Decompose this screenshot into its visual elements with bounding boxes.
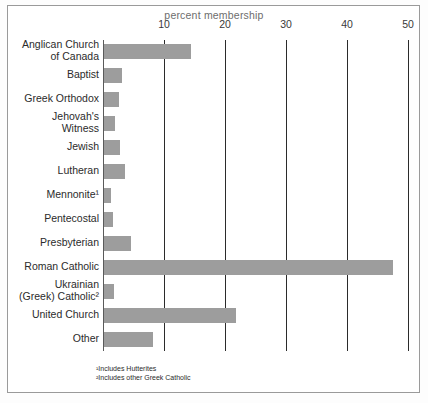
category-label: Jewish — [0, 141, 99, 153]
category-label: Lutheran — [0, 165, 99, 177]
bar — [104, 260, 393, 275]
gridline-20 — [225, 40, 226, 351]
category-label: United Church — [0, 309, 99, 321]
footnote-2: ²Includes other Greek Catholic — [96, 373, 191, 382]
category-label: Pentecostal — [0, 213, 99, 225]
footnote-block: ¹Includes Hutterites ²Includes other Gre… — [96, 364, 191, 382]
bar — [104, 332, 153, 347]
x-tick-label-20: 20 — [219, 18, 231, 30]
category-label: Mennonite¹ — [0, 189, 99, 201]
category-label: Other — [0, 333, 99, 345]
category-label: Ukrainian (Greek) Catholic² — [0, 279, 99, 302]
category-label: Greek Orthodox — [0, 93, 99, 105]
category-label: Baptist — [0, 69, 99, 81]
gridline-40 — [347, 40, 348, 351]
x-tick-label-40: 40 — [341, 18, 353, 30]
category-label: Roman Catholic — [0, 261, 99, 273]
bar — [104, 116, 115, 131]
bar — [104, 68, 122, 83]
x-tick-label-10: 10 — [158, 18, 170, 30]
plot-area: 1020304050 — [103, 40, 408, 351]
bar — [104, 44, 191, 59]
gridline-10 — [164, 40, 165, 351]
footnote-1: ¹Includes Hutterites — [96, 364, 191, 373]
bar — [104, 92, 119, 107]
x-tick-label-50: 50 — [402, 18, 414, 30]
bar — [104, 212, 113, 227]
gridline-30 — [286, 40, 287, 351]
category-label-column: Anglican Church of CanadaBaptistGreek Or… — [0, 40, 99, 351]
bar — [104, 236, 131, 251]
bar — [104, 284, 114, 299]
category-label: Presbyterian — [0, 237, 99, 249]
bar — [104, 164, 125, 179]
bar — [104, 188, 111, 203]
bar — [104, 308, 236, 323]
x-tick-label-30: 30 — [280, 18, 292, 30]
chart-title: percent membership — [0, 9, 428, 21]
gridline-50 — [408, 40, 409, 351]
bar — [104, 140, 120, 155]
chart-figure: percent membership Anglican Church of Ca… — [0, 0, 428, 403]
category-label: Anglican Church of Canada — [0, 39, 99, 62]
category-label: Jehovah's Witness — [0, 111, 99, 134]
